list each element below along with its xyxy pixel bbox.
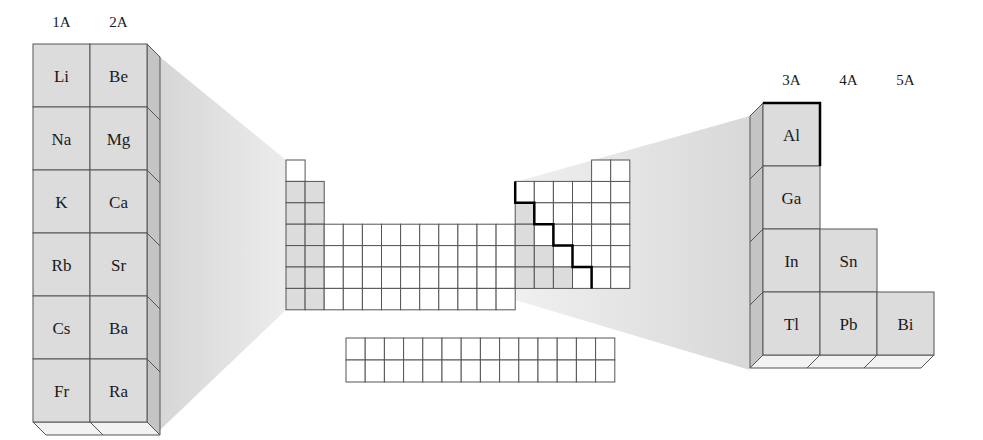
f-block-cell — [384, 360, 403, 382]
table-cell — [382, 246, 401, 267]
block-bottom-face — [750, 355, 934, 368]
table-cell — [592, 267, 611, 288]
table-cell — [534, 267, 553, 288]
periodic-table-diagram: LiBeNaMgKCaRbSrCsBaFrRa AlGaInSnTlPbBi — [0, 0, 983, 440]
element-symbol: Li — [54, 67, 69, 86]
element-symbol: Be — [109, 67, 128, 86]
table-cell — [286, 288, 305, 309]
f-block-cell — [480, 338, 499, 360]
f-block-cell — [423, 360, 442, 382]
table-cell — [439, 288, 458, 309]
table-cell — [362, 246, 381, 267]
table-cell — [592, 181, 611, 202]
f-block-cell — [557, 360, 576, 382]
f-block-cell — [461, 338, 480, 360]
table-cell — [611, 246, 630, 267]
table-cell — [401, 224, 420, 245]
f-block-cell — [500, 338, 519, 360]
table-cell — [382, 288, 401, 309]
table-cell — [382, 224, 401, 245]
table-cell — [553, 246, 572, 267]
table-cell — [611, 203, 630, 224]
table-cell — [401, 288, 420, 309]
element-symbol: Ra — [109, 382, 128, 401]
table-cell — [592, 203, 611, 224]
f-block-cell — [538, 338, 557, 360]
element-symbol: K — [55, 193, 68, 212]
table-cell — [343, 246, 362, 267]
f-block-cell — [519, 338, 538, 360]
f-block-cell — [384, 338, 403, 360]
table-cell — [534, 224, 553, 245]
element-symbol: In — [784, 252, 799, 271]
element-symbol: Ga — [782, 189, 802, 208]
f-block-table — [346, 338, 615, 382]
table-cell — [286, 224, 305, 245]
table-cell — [439, 246, 458, 267]
table-cell — [439, 267, 458, 288]
element-symbol: Sn — [840, 252, 858, 271]
table-cell — [534, 181, 553, 202]
table-cell — [573, 203, 592, 224]
table-cell — [573, 246, 592, 267]
f-block-cell — [538, 360, 557, 382]
table-cell — [286, 203, 305, 224]
f-block-cell — [480, 360, 499, 382]
element-symbol: Mg — [107, 130, 131, 149]
table-cell — [515, 267, 534, 288]
table-cell — [286, 267, 305, 288]
table-cell — [611, 267, 630, 288]
element-symbol: Al — [783, 126, 800, 145]
table-cell — [420, 267, 439, 288]
table-cell — [286, 246, 305, 267]
table-cell — [553, 203, 572, 224]
element-symbol: Rb — [52, 256, 72, 275]
table-cell — [343, 288, 362, 309]
right-enlarged-block: AlGaInSnTlPbBi — [750, 103, 934, 368]
f-block-cell — [576, 360, 595, 382]
element-symbol: Sr — [111, 256, 126, 275]
table-cell — [420, 246, 439, 267]
table-cell — [458, 224, 477, 245]
table-cell — [553, 181, 572, 202]
group-label-1a: 1A — [33, 14, 90, 31]
main-periodic-table — [286, 160, 630, 310]
table-cell — [515, 224, 534, 245]
table-cell — [305, 246, 324, 267]
table-cell — [458, 267, 477, 288]
table-cell — [573, 181, 592, 202]
f-block-cell — [404, 360, 423, 382]
table-cell — [611, 181, 630, 202]
table-cell — [458, 246, 477, 267]
f-block-cell — [346, 360, 365, 382]
table-cell — [534, 246, 553, 267]
element-symbol: Ba — [109, 319, 128, 338]
left-zoom-wedge — [160, 57, 286, 430]
f-block-cell — [596, 338, 615, 360]
table-cell — [477, 288, 496, 309]
table-cell — [324, 267, 343, 288]
f-block-cell — [346, 338, 365, 360]
table-cell — [305, 181, 324, 202]
table-cell — [324, 288, 343, 309]
table-cell — [305, 203, 324, 224]
table-cell — [343, 267, 362, 288]
table-cell — [496, 224, 515, 245]
group-label-3a: 3A — [763, 72, 820, 89]
table-cell — [401, 246, 420, 267]
f-block-cell — [461, 360, 480, 382]
table-cell — [286, 160, 305, 181]
table-cell — [324, 246, 343, 267]
table-cell — [439, 224, 458, 245]
f-block-cell — [404, 338, 423, 360]
group-label-4a: 4A — [820, 72, 877, 89]
table-cell — [420, 224, 439, 245]
group-label-5a: 5A — [877, 72, 934, 89]
f-block-cell — [519, 360, 538, 382]
table-cell — [305, 267, 324, 288]
table-cell — [305, 224, 324, 245]
table-cell — [553, 267, 572, 288]
f-block-cell — [557, 338, 576, 360]
table-cell — [458, 288, 477, 309]
table-cell — [286, 181, 305, 202]
